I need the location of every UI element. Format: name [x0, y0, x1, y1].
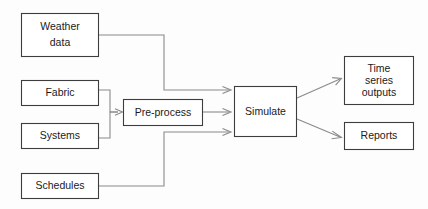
node-simulate[interactable]: Simulate	[235, 87, 297, 137]
edge-simulate-to-timeseries	[297, 78, 342, 98]
node-label-line-2: data	[50, 36, 71, 48]
node-label-line-1: Time	[368, 62, 391, 74]
edge-weather-to-simulate	[99, 35, 231, 93]
node-label-line-3: outputs	[362, 86, 396, 98]
edge-path	[99, 112, 118, 138]
arrowhead	[332, 131, 342, 139]
edge-schedules-to-simulate	[99, 129, 231, 186]
edge-simulate-to-reports	[297, 119, 342, 139]
edge-path	[297, 79, 340, 98]
node-label: Pre-process	[135, 106, 192, 118]
edge-path	[99, 35, 229, 90]
node-label: Schedules	[35, 179, 84, 191]
node-label: Reports	[361, 129, 398, 141]
flowchart-canvas: Weather data Fabric Systems Schedules Pr…	[0, 0, 428, 209]
node-weather-data[interactable]: Weather data	[22, 14, 99, 57]
node-label-line-1: Weather	[40, 20, 80, 32]
flowchart-diagram: Weather data Fabric Systems Schedules Pr…	[0, 0, 428, 209]
node-pre-process[interactable]: Pre-process	[124, 100, 203, 126]
node-time-series-outputs[interactable]: Time series outputs	[345, 57, 414, 105]
node-fabric[interactable]: Fabric	[22, 81, 99, 106]
node-schedules[interactable]: Schedules	[22, 174, 99, 199]
node-systems[interactable]: Systems	[22, 124, 99, 149]
node-label: Simulate	[245, 105, 286, 117]
node-reports[interactable]: Reports	[345, 123, 414, 150]
edge-path	[99, 132, 229, 186]
node-label: Fabric	[45, 86, 74, 98]
edge-path	[297, 119, 340, 137]
edge-preprocess-to-simulate	[203, 109, 231, 116]
edge-systems-to-preprocess	[99, 109, 123, 138]
node-label-line-2: series	[365, 74, 393, 86]
node-label: Systems	[40, 129, 80, 141]
